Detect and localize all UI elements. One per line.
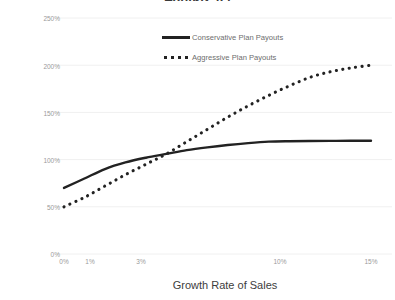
x-tick-0: 0% — [59, 258, 68, 265]
series-line-conservative — [64, 141, 371, 188]
x-axis-title: Growth Rate of Sales — [55, 279, 395, 291]
y-axis-ticks: 250% 200% 150% 100% 50% 0% — [16, 0, 60, 300]
series-line-aggressive — [64, 65, 371, 207]
legend-item-aggressive: Aggressive Plan Payouts — [160, 50, 330, 65]
dotted-line-key-icon — [160, 53, 190, 63]
legend-label-conservative: Conservative Plan Payouts — [192, 33, 283, 42]
y-tick-150: 150% — [20, 110, 60, 117]
solid-line-key-icon — [160, 33, 190, 43]
x-tick-3: 3% — [136, 258, 145, 265]
y-tick-0: 0% — [20, 251, 60, 258]
x-tick-1: 1% — [85, 258, 94, 265]
y-tick-50: 50% — [20, 204, 60, 211]
x-tick-15: 15% — [364, 258, 377, 265]
y-tick-250: 250% — [20, 15, 60, 22]
chart-figure: Exhibit 4.4 250% 200% 150% 100% 50% 0% 0… — [0, 0, 395, 300]
y-tick-200: 200% — [20, 63, 60, 70]
chart-legend: Conservative Plan Payouts Aggressive Pla… — [160, 30, 330, 70]
legend-item-conservative: Conservative Plan Payouts — [160, 30, 330, 45]
legend-label-aggressive: Aggressive Plan Payouts — [192, 53, 276, 62]
y-tick-100: 100% — [20, 157, 60, 164]
x-tick-10: 10% — [273, 258, 286, 265]
